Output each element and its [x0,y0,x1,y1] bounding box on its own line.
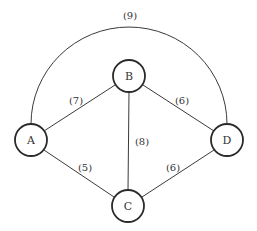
edge-a-b [44,85,115,131]
edge-c-d [142,150,214,197]
node-d-label: D [223,134,232,147]
node-a-label: A [26,134,36,147]
edge-a-c [44,150,114,197]
edge-label-b-d: (6) [175,95,189,106]
edge-label-b-c: (8) [135,136,149,147]
edge-b-c [128,92,129,190]
edge-label-c-d: (6) [166,162,180,173]
node-d: D [211,124,243,156]
node-c-label: C [124,200,132,213]
node-c: C [112,190,144,222]
edge-label-a-c: (5) [78,162,92,173]
edge-label-a-b: (7) [69,95,83,106]
graph-diagram: (7) (6) (8) (5) (6) (9) A B C D [0,0,257,231]
edge-b-d [143,85,214,131]
node-b-label: B [125,70,133,83]
node-a: A [15,124,47,156]
node-b: B [113,60,145,92]
edge-label-a-d: (9) [123,10,137,21]
